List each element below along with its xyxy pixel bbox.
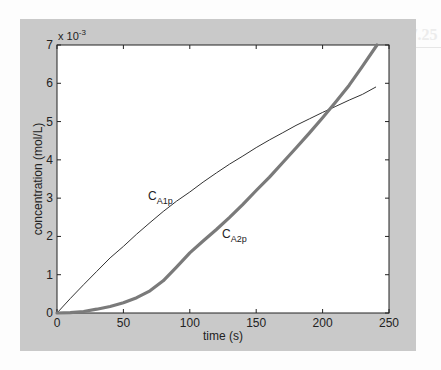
x-tick-label: 150 bbox=[246, 316, 266, 330]
x-tick-label: 250 bbox=[379, 316, 399, 330]
x-tick-label: 100 bbox=[180, 316, 200, 330]
y-tick-label: 3 bbox=[46, 191, 53, 205]
y-axis-label: concentration (mol/L) bbox=[31, 123, 45, 236]
x-tick-label: 0 bbox=[54, 316, 61, 330]
x-tick-labels: 050100150200250 bbox=[54, 316, 400, 330]
y-exponent-label: x 10-3 bbox=[58, 28, 86, 42]
plot-area bbox=[57, 45, 389, 313]
y-tick-label: 6 bbox=[46, 76, 53, 90]
x-tick-label: 50 bbox=[117, 316, 131, 330]
y-tick-label: 0 bbox=[46, 306, 53, 320]
x-tick-label: 200 bbox=[313, 316, 333, 330]
y-tick-label: 4 bbox=[46, 153, 53, 167]
y-tick-label: 5 bbox=[46, 115, 53, 129]
line-chart: 050100150200250 01234567 x 10-3 time (s)… bbox=[0, 0, 441, 370]
y-tick-label: 7 bbox=[46, 38, 53, 52]
x-axis-label: time (s) bbox=[203, 329, 243, 343]
y-tick-label: 2 bbox=[46, 229, 53, 243]
y-tick-label: 1 bbox=[46, 268, 53, 282]
y-tick-labels: 01234567 bbox=[46, 38, 53, 320]
